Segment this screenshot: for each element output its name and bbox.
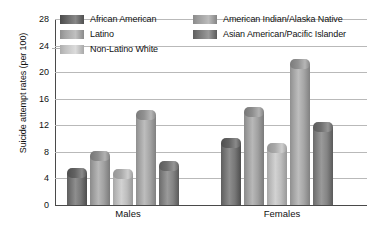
bar-males-african-american bbox=[67, 168, 87, 205]
bar-top-ellipse bbox=[90, 151, 110, 161]
bar-body bbox=[244, 112, 264, 205]
x-axis-label-females: Females bbox=[224, 208, 340, 219]
bar-body bbox=[221, 143, 241, 205]
legend-label-latino: Latino bbox=[90, 29, 114, 39]
bar-body bbox=[267, 148, 287, 205]
legend-item-non-latino-white: Non-Latino White bbox=[60, 44, 158, 54]
bar-males-american-indian-alaska-native bbox=[136, 110, 156, 205]
y-axis-tick-label-16: 16 bbox=[39, 94, 49, 104]
bar-females-african-american bbox=[221, 138, 241, 205]
bar-females-non-latino-white bbox=[267, 143, 287, 205]
bar-top-ellipse bbox=[159, 161, 179, 171]
bar-males-asian-american-pacific-islander bbox=[159, 161, 179, 205]
bar-top-ellipse bbox=[313, 122, 333, 132]
y-axis-tick-label-12: 12 bbox=[39, 120, 49, 130]
y-axis-tick-label-24: 24 bbox=[39, 41, 49, 51]
legend-label-non-latino-white: Non-Latino White bbox=[90, 44, 158, 54]
y-axis-title: Suicide attempt rates (per 100) bbox=[18, 8, 28, 178]
y-axis-tick-label-20: 20 bbox=[39, 67, 49, 77]
bar-females-american-indian-alaska-native bbox=[290, 59, 310, 205]
y-axis-tick-label-8: 8 bbox=[44, 147, 49, 157]
bar-females-asian-american-pacific-islander bbox=[313, 122, 333, 205]
bar-top-ellipse bbox=[244, 107, 264, 117]
y-axis-tick-label-0: 0 bbox=[44, 200, 49, 210]
bar-top-ellipse bbox=[136, 110, 156, 120]
legend-item-african-american: African American bbox=[60, 14, 156, 24]
legend-item-american-indian-alaska-native: American Indian/Alaska Native bbox=[193, 14, 343, 24]
bar-body bbox=[159, 166, 179, 205]
bar-females-latino bbox=[244, 107, 264, 205]
legend-item-asian-american-pacific-islander: Asian American/Pacific Islander bbox=[193, 29, 346, 39]
legend-swatch-american-indian-alaska-native-icon bbox=[193, 15, 217, 24]
legend-label-asian-american-pacific-islander: Asian American/Pacific Islander bbox=[223, 29, 346, 39]
bar-top-ellipse bbox=[221, 138, 241, 148]
bar-males-non-latino-white bbox=[113, 169, 133, 205]
gridline-0 bbox=[55, 205, 367, 206]
bar-top-ellipse bbox=[113, 169, 133, 179]
legend-swatch-latino-icon bbox=[60, 30, 84, 39]
y-axis-tick-label-4: 4 bbox=[44, 173, 49, 183]
legend-swatch-non-latino-white-icon bbox=[60, 45, 84, 54]
legend-label-american-indian-alaska-native: American Indian/Alaska Native bbox=[223, 14, 343, 24]
legend-swatch-african-american-icon bbox=[60, 15, 84, 24]
bar-top-ellipse bbox=[267, 143, 287, 153]
bar-body bbox=[90, 156, 110, 205]
legend: African American Latino Non-Latino White… bbox=[60, 14, 370, 62]
suicide-attempt-rates-bar-chart: Suicide attempt rates (per 100) 04812162… bbox=[0, 0, 379, 239]
bar-top-ellipse bbox=[67, 168, 87, 178]
legend-swatch-asian-american-pacific-islander-icon bbox=[193, 30, 217, 39]
bar-males-latino bbox=[90, 151, 110, 205]
bar-body bbox=[290, 64, 310, 205]
y-axis-tick-label-28: 28 bbox=[39, 14, 49, 24]
legend-label-african-american: African American bbox=[90, 14, 156, 24]
bar-body bbox=[313, 127, 333, 205]
legend-item-latino: Latino bbox=[60, 29, 114, 39]
x-axis-label-males: Males bbox=[70, 208, 186, 219]
bar-body bbox=[136, 115, 156, 205]
